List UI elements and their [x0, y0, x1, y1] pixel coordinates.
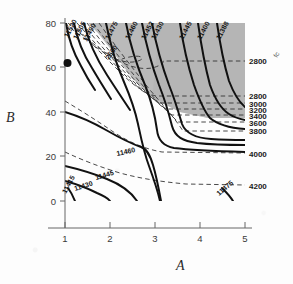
y-tick-label-40: 40	[45, 107, 56, 118]
corner-annotation: fc	[272, 50, 281, 59]
edge-label-4200: 4200	[249, 182, 267, 191]
contour-label-11460-lower: 11460	[116, 146, 136, 157]
x-tick-label-4: 4	[197, 233, 202, 244]
edge-label-2800-upper: 2800	[249, 57, 267, 66]
edge-value-labels: 2800 2800 3000 3200 3400 3600 3800 4000 …	[249, 57, 267, 191]
y-tick-label-0: 0	[51, 196, 56, 207]
edge-label-4000: 4000	[249, 150, 267, 159]
contour-plot-canvas: 80 60 40 20 0 1 2 3 4 5 11520 11505 1149…	[0, 0, 293, 284]
x-tick-marks	[65, 222, 245, 228]
edge-label-3800: 3800	[249, 127, 267, 136]
x-axis-title: A	[176, 258, 185, 274]
contour-plot-figure: 80 60 40 20 0 1 2 3 4 5 11520 11505 1149…	[0, 0, 293, 284]
design-point-marker	[64, 59, 72, 67]
x-tick-label-2: 2	[107, 233, 112, 244]
y-tick-label-20: 20	[45, 151, 56, 162]
x-tick-label-1: 1	[62, 233, 67, 244]
y-axis-title: B	[6, 110, 15, 126]
x-tick-label-5: 5	[242, 233, 247, 244]
contour-label-11475-lower: 11475	[215, 179, 234, 197]
y-tick-marks	[60, 23, 65, 201]
y-tick-label-60: 60	[45, 62, 56, 73]
x-tick-label-3: 3	[152, 233, 157, 244]
contour-label-11445-lower: 11445	[94, 169, 114, 181]
y-tick-label-80: 80	[45, 18, 56, 29]
